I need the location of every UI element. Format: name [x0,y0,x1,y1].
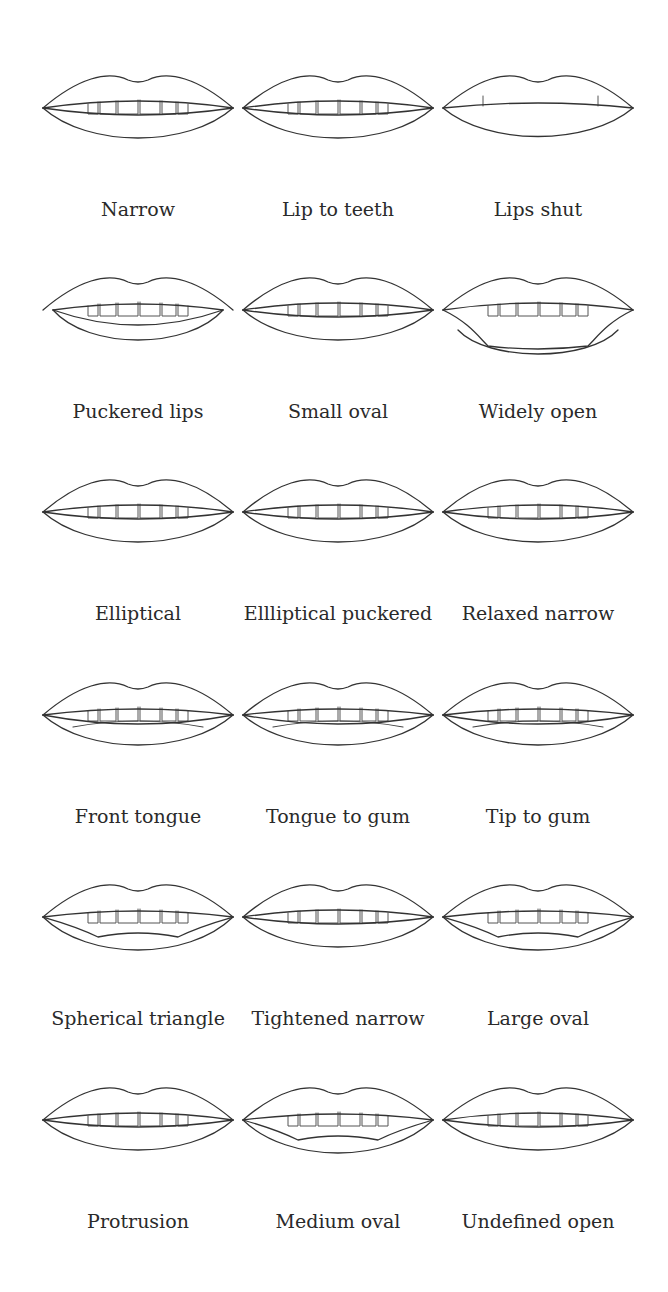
lip-shape-item: Elliptical [38,472,238,672]
lip-shape-label: Tightened narrow [238,1007,438,1029]
lip-shape-label: Spherical triangle [38,1007,238,1029]
lip-shape-label: Front tongue [38,805,238,827]
lip-shape-item: Ellliptical puckered [238,472,438,672]
lip-shape-label: Relaxed narrow [438,602,638,624]
lip-shape-label: Widely open [438,400,638,422]
lip-shape-item: Small oval [238,270,438,470]
lip-shape-item: Large oval [438,877,638,1077]
lip-shape-label: Narrow [38,198,238,220]
lip-shape-item: Relaxed narrow [438,472,638,672]
lip-shape-item: Lips shut [438,68,638,268]
lip-shape-item: Protrusion [38,1080,238,1280]
lip-shape-item: Spherical triangle [38,877,238,1077]
lip-shape-item: Widely open [438,270,638,470]
lip-shape-label: Small oval [238,400,438,422]
lip-shape-label: Lip to teeth [238,198,438,220]
lip-shape-label: Undefined open [438,1210,638,1232]
lip-shape-label: Tongue to gum [238,805,438,827]
lip-shape-label: Ellliptical puckered [238,602,438,624]
lip-shape-label: Lips shut [438,198,638,220]
lip-shape-label: Medium oval [238,1210,438,1232]
lip-shape-label: Elliptical [38,602,238,624]
lip-shape-label: Large oval [438,1007,638,1029]
lip-shape-item: Tip to gum [438,675,638,875]
lip-shape-item: Tightened narrow [238,877,438,1077]
lip-shape-label: Puckered lips [38,400,238,422]
lip-shape-label: Protrusion [38,1210,238,1232]
lip-shape-item: Puckered lips [38,270,238,470]
lip-shape-label: Tip to gum [438,805,638,827]
lip-shape-item: Front tongue [38,675,238,875]
lip-shape-item: Undefined open [438,1080,638,1280]
lip-shape-item: Medium oval [238,1080,438,1280]
lip-shape-item: Tongue to gum [238,675,438,875]
lip-shape-item: Narrow [38,68,238,268]
lip-shape-item: Lip to teeth [238,68,438,268]
